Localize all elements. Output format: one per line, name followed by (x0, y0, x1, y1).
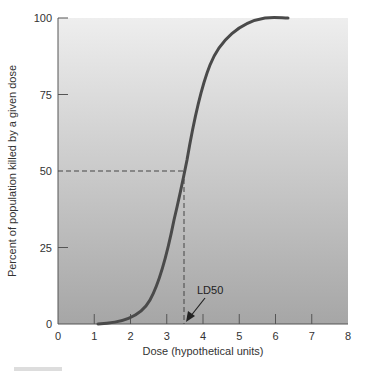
y-tick-50: 50 (40, 165, 52, 177)
x-tick-4: 4 (200, 330, 206, 342)
y-tick-0: 0 (46, 318, 52, 330)
chart-svg: 100 75 50 25 0 0 1 2 3 4 5 6 7 8 LD50 Do… (0, 0, 366, 371)
y-tick-100: 100 (34, 12, 52, 24)
x-tick-1: 1 (91, 330, 97, 342)
x-tick-8: 8 (345, 330, 351, 342)
x-tick-7: 7 (309, 330, 315, 342)
x-tick-2: 2 (127, 330, 133, 342)
x-tick-labels: 0 1 2 3 4 5 6 7 8 (55, 330, 351, 342)
x-tick-3: 3 (164, 330, 170, 342)
x-tick-6: 6 (272, 330, 278, 342)
x-tick-5: 5 (236, 330, 242, 342)
x-axis-title: Dose (hypothetical units) (142, 345, 263, 357)
x-tick-0: 0 (55, 330, 61, 342)
y-tick-75: 75 (40, 89, 52, 101)
y-tick-25: 25 (40, 242, 52, 254)
ld50-label: LD50 (197, 284, 223, 296)
figure-label-artifact (14, 367, 62, 371)
y-tick-labels: 100 75 50 25 0 (34, 12, 52, 330)
y-axis-title: Percent of population killed by a given … (6, 65, 18, 277)
